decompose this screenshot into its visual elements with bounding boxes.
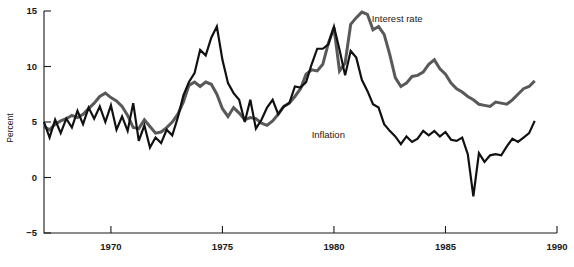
y-tick-label: 0 — [32, 172, 37, 183]
y-axis-title: Percent — [5, 113, 15, 143]
axes-group — [44, 11, 557, 233]
y-axis-tick-labels: −5051015 — [26, 5, 38, 238]
y-tick-label: 10 — [26, 61, 37, 72]
y-tick-label: 5 — [32, 116, 38, 127]
series-paths — [44, 12, 535, 196]
series-annotations: Interest rateInflation — [312, 13, 423, 139]
line-chart: −5051015 19701975198019851990 Percent In… — [0, 0, 574, 267]
axis-lines — [44, 11, 557, 233]
x-axis-tick-labels: 19701975198019851990 — [100, 241, 567, 252]
x-tick-label: 1975 — [212, 241, 234, 252]
y-tick-label: −5 — [26, 227, 38, 238]
series-line-inflation — [44, 27, 535, 197]
y-tick-label: 15 — [26, 5, 37, 16]
x-tick-label: 1980 — [323, 241, 344, 252]
x-axis-tick-marks — [111, 226, 557, 233]
x-tick-label: 1985 — [435, 241, 457, 252]
chart-container: −5051015 19701975198019851990 Percent In… — [0, 0, 574, 267]
series-line-interest-rate — [44, 12, 535, 133]
x-tick-label: 1990 — [546, 241, 567, 252]
annotation-interest-rate: Interest rate — [372, 13, 423, 24]
annotation-inflation: Inflation — [312, 129, 345, 140]
x-tick-label: 1970 — [100, 241, 121, 252]
